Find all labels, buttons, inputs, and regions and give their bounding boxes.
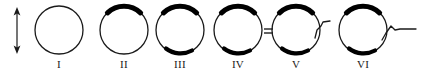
stage-I [35,6,83,54]
stage-label-IV: IV [223,58,253,70]
bottom-cap-arc [224,49,250,54]
stage-label-I: I [44,58,74,70]
stage-V [272,6,330,54]
bottom-cap-arc [166,49,192,54]
stage-circle [35,6,83,54]
diagram-figure: I II III IV V VI [0,0,423,76]
stage-label-III: III [165,58,195,70]
bottom-cap-arc [349,49,375,54]
bottom-cap-arc [282,49,308,54]
stage-label-VI: VI [348,58,378,70]
stage-IV [214,6,273,54]
stage-VI [339,6,416,54]
stage-label-II: II [109,58,139,70]
stage-label-V: V [281,58,311,70]
tail-zigzag-short [315,21,330,38]
stage-III [156,6,204,54]
top-cap-arc [280,6,313,13]
vertical-double-headed-arrow [14,7,21,54]
top-cap-arc [347,6,380,13]
top-cap-arc [164,6,197,13]
top-cap-arc [222,6,255,13]
top-cap-arc [108,6,141,13]
stage-II [100,6,148,54]
